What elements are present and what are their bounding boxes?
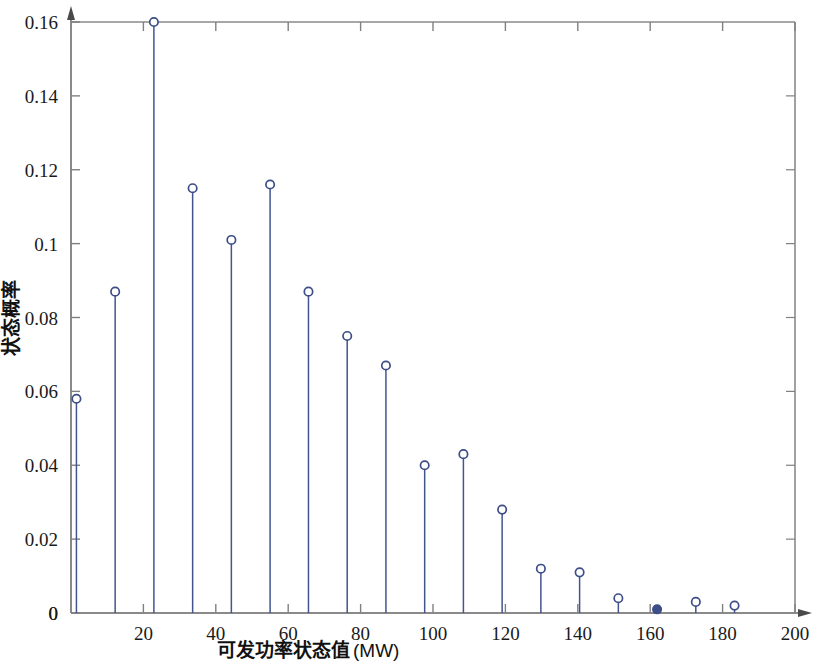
y-tick-label: 0.1 bbox=[34, 234, 58, 255]
x-axis-arrow-icon bbox=[798, 609, 812, 617]
chart-canvas: 00.020.040.060.080.10.120.140.16 0204060… bbox=[0, 0, 814, 664]
x-axis-title-cn: 可发功率状态值 bbox=[217, 639, 350, 661]
x-tick-label: 20 bbox=[134, 623, 153, 644]
x-tick-label: 100 bbox=[419, 623, 448, 644]
stem-marker bbox=[111, 287, 119, 295]
y-tick-marks bbox=[71, 22, 795, 613]
stem-marker bbox=[343, 332, 351, 340]
stem-series bbox=[72, 18, 739, 614]
y-tick-label: 0.04 bbox=[25, 455, 59, 476]
stem-marker bbox=[304, 287, 312, 295]
stem-marker bbox=[498, 505, 506, 513]
y-tick-label: 0.02 bbox=[25, 529, 58, 550]
stem-marker bbox=[653, 605, 661, 613]
y-tick-labels: 00.020.040.060.080.10.120.140.16 bbox=[25, 12, 59, 624]
origin-label: 0 bbox=[49, 603, 59, 624]
stem-marker bbox=[227, 236, 235, 244]
y-tick-label: 0.06 bbox=[25, 381, 58, 402]
x-tick-label: 160 bbox=[636, 623, 665, 644]
y-tick-label: 0.14 bbox=[25, 86, 59, 107]
y-axis-title: 状态概率 bbox=[0, 280, 22, 356]
y-tick-label: 0.12 bbox=[25, 160, 58, 181]
y-axis-title-cn: 状态概率 bbox=[0, 280, 22, 356]
stem-marker bbox=[537, 564, 545, 572]
stem-marker bbox=[420, 461, 428, 469]
stem-marker bbox=[150, 18, 158, 26]
x-tick-label: 200 bbox=[781, 623, 810, 644]
x-axis-title: 可发功率状态值 (MW) bbox=[217, 639, 399, 661]
y-axis-arrow-icon bbox=[67, 6, 75, 20]
stem-marker bbox=[382, 361, 390, 369]
stem-marker bbox=[188, 184, 196, 192]
x-axis-title-unit: (MW) bbox=[353, 640, 399, 661]
stem-marker bbox=[614, 594, 622, 602]
plot-frame bbox=[67, 6, 812, 617]
stem-marker bbox=[72, 395, 80, 403]
stem-marker bbox=[266, 180, 274, 188]
stem-marker bbox=[575, 568, 583, 576]
stem-marker bbox=[692, 598, 700, 606]
x-tick-marks bbox=[143, 22, 795, 613]
x-tick-label: 140 bbox=[564, 623, 593, 644]
stem-marker bbox=[459, 450, 467, 458]
x-tick-label: 120 bbox=[491, 623, 520, 644]
stem-chart-figure: 00.020.040.060.080.10.120.140.16 0204060… bbox=[0, 0, 814, 664]
stem-marker bbox=[730, 601, 738, 609]
y-tick-label: 0.08 bbox=[25, 308, 58, 329]
y-tick-label: 0.16 bbox=[25, 12, 58, 33]
x-tick-label: 180 bbox=[708, 623, 737, 644]
